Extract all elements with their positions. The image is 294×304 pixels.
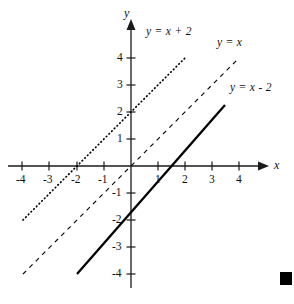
series-line-y-equals-x-minus-2 [77, 105, 225, 274]
y-tick-label: -4 [112, 268, 122, 279]
x-tick-label: -4 [16, 174, 26, 185]
y-tick-label: -3 [112, 241, 122, 252]
y-tick-label: 1 [117, 133, 123, 144]
y-tick-label: 3 [117, 79, 123, 90]
x-tick-label: 4 [236, 174, 242, 185]
x-tick-label: -3 [43, 174, 53, 185]
series-label-y-equals-x: y = x [217, 37, 242, 48]
y-tick-label: 2 [117, 106, 123, 117]
y-tick-label: -2 [112, 214, 122, 225]
corner-square-marker [280, 272, 292, 285]
x-tick-label: 3 [209, 174, 215, 185]
series-label-y-equals-x-plus-2: y = x + 2 [146, 26, 192, 37]
y-axis [127, 19, 136, 288]
y-tick-label: -1 [112, 187, 122, 198]
x-tick-label: 2 [182, 174, 188, 185]
series-line-y-equals-x-plus-2 [23, 58, 185, 220]
plot-canvas [0, 0, 294, 304]
x-tick-label: -2 [71, 174, 81, 185]
x-axis [8, 162, 269, 171]
y-axis-label: y [124, 8, 129, 19]
x-tick-label: -1 [98, 174, 108, 185]
x-tick-label: 1 [155, 174, 161, 185]
y-tick-label: 4 [117, 52, 123, 63]
series-label-y-equals-x-minus-2: y = x - 2 [230, 82, 272, 93]
line-graph-figure: -4 -3 -2 -1 1 2 3 4 4 3 2 1 -1 -2 -3 -4 … [0, 0, 294, 304]
x-axis-label: x [274, 160, 279, 171]
